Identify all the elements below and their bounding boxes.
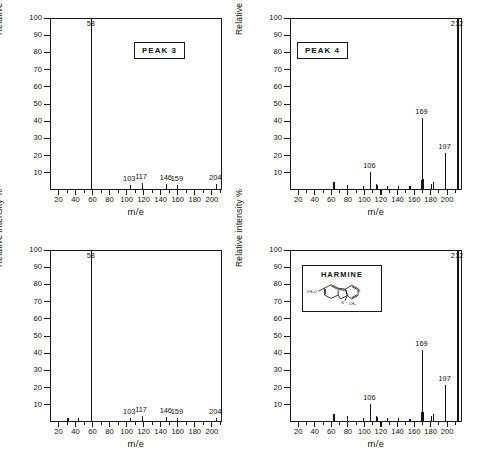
- y-axis-tick: [44, 318, 50, 319]
- spectrum-peak: [177, 185, 178, 189]
- spectrum-peak: [363, 186, 364, 189]
- spectrum-peak: [347, 185, 348, 189]
- y-axis-tick: [44, 250, 50, 251]
- panel-title-box: PEAK 3: [134, 42, 185, 59]
- y-axis-tick-label: 10: [260, 169, 282, 177]
- spectrum-peak: [387, 418, 388, 421]
- spectrum-peak: [409, 186, 410, 189]
- peak-annotation: 58: [87, 20, 95, 27]
- y-axis-tick-label: 20: [260, 152, 282, 160]
- spectrum-peak: [409, 419, 410, 421]
- panel-title-box: PEAK 4: [297, 42, 348, 59]
- y-axis-tick-label: 80: [260, 280, 282, 288]
- y-axis-tick: [44, 35, 50, 36]
- x-axis-title: m/e: [50, 438, 222, 449]
- y-axis-tick-label: 60: [260, 315, 282, 323]
- y-axis-tick: [44, 284, 50, 285]
- panel-harmine: Relative intensity % m/e HARMINE: [240, 232, 480, 464]
- x-axis-tick-minor: [422, 422, 423, 425]
- spectrum-peak: [347, 416, 348, 421]
- y-axis-tick-label: 20: [20, 152, 42, 160]
- peak-annotation: 212: [451, 252, 463, 259]
- spectrum-peak: [142, 416, 143, 421]
- y-axis-tick: [44, 104, 50, 105]
- y-axis-tick-label: 100: [20, 246, 42, 254]
- y-axis-tick-label: 90: [20, 31, 42, 39]
- spectrum-peak: [91, 19, 92, 189]
- spectrum-peak: [91, 251, 92, 421]
- y-axis-tick: [44, 86, 50, 87]
- y-axis-tick: [44, 404, 50, 405]
- panel-5-oh-dmt: Relative intensity % m/e 5-OH-DMT: [0, 232, 240, 464]
- x-axis-tick-label: 200: [200, 428, 224, 436]
- y-axis-tick-label: 20: [20, 384, 42, 392]
- y-axis-tick: [284, 267, 290, 268]
- x-axis-title: m/e: [50, 206, 222, 217]
- x-axis-tick-minor: [118, 190, 119, 193]
- x-axis-tick-minor: [323, 422, 324, 425]
- peak-annotation: 117: [135, 406, 147, 413]
- y-axis-tick-label: 70: [20, 298, 42, 306]
- spectrum-peak: [445, 153, 446, 189]
- y-axis-tick-label: 100: [260, 246, 282, 254]
- y-axis-tick: [44, 172, 50, 173]
- x-axis-tick-minor: [339, 190, 340, 193]
- structure-atom-ch3o: CH₃O: [307, 290, 317, 294]
- x-axis-tick-minor: [306, 190, 307, 193]
- y-axis-tick-label: 100: [260, 14, 282, 22]
- x-axis-tick-minor: [118, 422, 119, 425]
- structure-atom-n-pyridine: N: [358, 289, 361, 293]
- x-axis-tick-minor: [438, 422, 439, 425]
- spectrum-peak: [130, 185, 131, 189]
- y-axis-tick-label: 80: [20, 280, 42, 288]
- peak-annotation: 197: [438, 375, 450, 382]
- spectrum-peak: [166, 417, 167, 421]
- y-axis-tick-label: 70: [20, 66, 42, 74]
- y-axis-tick-label: 90: [260, 31, 282, 39]
- y-axis-tick-label: 30: [20, 134, 42, 142]
- peak-annotation: 169: [415, 108, 427, 115]
- y-axis-tick: [44, 52, 50, 53]
- y-axis-tick-label: 60: [20, 83, 42, 91]
- y-axis-title: Relative intensity %: [234, 0, 244, 56]
- spectrum-peak: [142, 183, 143, 189]
- x-axis-tick-minor: [169, 190, 170, 193]
- spectrum-peak: [423, 179, 424, 189]
- x-axis-tick-minor: [203, 190, 204, 193]
- x-axis-tick-minor: [455, 422, 456, 425]
- y-axis-tick-label: 50: [260, 100, 282, 108]
- y-axis-tick-label: 90: [260, 263, 282, 271]
- x-axis-tick-minor: [135, 190, 136, 193]
- y-axis-tick: [284, 155, 290, 156]
- spectrum-peak: [377, 417, 378, 421]
- y-axis-tick-label: 50: [20, 332, 42, 340]
- x-axis-tick-minor: [372, 422, 373, 425]
- peak-annotation: 159: [171, 408, 183, 415]
- x-axis-tick-minor: [152, 422, 153, 425]
- peak-annotation: 103: [123, 175, 135, 182]
- peak-annotation: 106: [363, 394, 375, 401]
- y-axis-tick-label: 70: [260, 298, 282, 306]
- x-axis-tick-minor: [135, 422, 136, 425]
- structure-diagram-harmine: CH₃O N N CH₃: [303, 278, 381, 312]
- x-axis-tick-minor: [203, 422, 204, 425]
- y-axis-title: Relative intensity %: [0, 168, 4, 288]
- x-axis-tick-minor: [220, 190, 221, 193]
- x-axis-tick-minor: [84, 190, 85, 193]
- spectrum-peak: [130, 418, 131, 421]
- spectrum-peak: [363, 418, 364, 421]
- y-axis-tick: [284, 353, 290, 354]
- y-axis-tick-label: 50: [260, 332, 282, 340]
- spectrum-peak: [333, 414, 334, 421]
- peak-annotation: 58: [87, 252, 95, 259]
- y-axis-tick-label: 60: [20, 315, 42, 323]
- y-axis-tick-label: 40: [260, 349, 282, 357]
- spectrum-peak: [78, 418, 79, 421]
- x-axis-tick-minor: [67, 422, 68, 425]
- spectrum-peak: [387, 186, 388, 189]
- spectrum-peak: [445, 385, 446, 421]
- y-axis-tick: [284, 86, 290, 87]
- y-axis-tick: [284, 52, 290, 53]
- y-axis-tick: [44, 267, 50, 268]
- spectrum-peak: [398, 186, 399, 189]
